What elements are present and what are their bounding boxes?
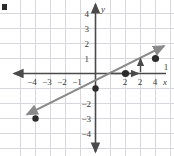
coordinate-plane-svg: −4 −3 −2 −1 2 4 4 3 2 1 −2 −3 −4 y x 2 1	[0, 0, 174, 156]
y-tick--2: −2	[81, 99, 91, 109]
y-tick--3: −3	[81, 114, 91, 124]
y-tick-1: 1	[85, 54, 90, 64]
point-0-neg1	[92, 85, 98, 91]
y-tick-3: 3	[85, 24, 90, 34]
run-label: 2	[138, 77, 143, 87]
x-axis-label: x	[162, 77, 167, 87]
y-axis-label: y	[100, 4, 105, 14]
rise-label: 1	[164, 62, 169, 72]
x-tick--1: −1	[72, 77, 82, 87]
x-tick--4: −4	[27, 77, 37, 87]
x-tick--2: −2	[57, 77, 67, 87]
y-tick-2: 2	[85, 39, 90, 49]
point-4-1	[152, 55, 159, 62]
x-tick-2: 2	[123, 77, 128, 87]
y-tick--4: −4	[81, 129, 91, 139]
x-tick--3: −3	[42, 77, 52, 87]
y-tick-4: 4	[85, 9, 90, 19]
corner-mark-icon	[2, 4, 7, 10]
x-tick-4: 4	[153, 77, 158, 87]
point-neg4-neg3	[32, 115, 38, 121]
graph-figure: −4 −3 −2 −1 2 4 4 3 2 1 −2 −3 −4 y x 2 1	[0, 0, 174, 156]
